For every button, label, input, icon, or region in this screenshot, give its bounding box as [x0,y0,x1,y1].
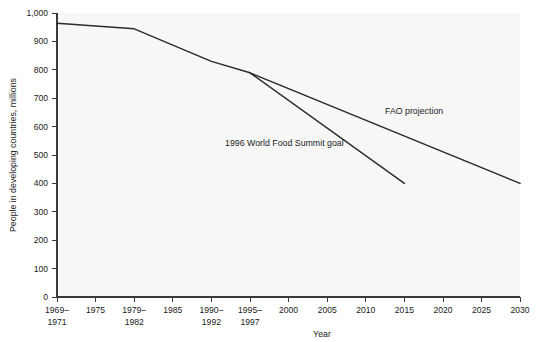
x-tick-label: 1990– [199,305,223,315]
x-tick-label-line2: 1992 [202,317,221,327]
x-axis-title: Year [313,329,331,339]
x-tick-label-line2: 1971 [47,317,66,327]
y-tick-label: 600 [34,122,49,132]
x-tick-label-line2: 1997 [240,317,259,327]
y-tick-label: 200 [34,235,49,245]
y-tick-label: 100 [34,264,49,274]
x-tick-label: 1979– [122,305,146,315]
x-tick-label: 1995– [238,305,262,315]
y-tick-label: 800 [34,65,49,75]
x-tick-label: 2030 [510,305,529,315]
y-axis-ticks [52,13,57,297]
line-chart-canvas: 0 100 200 300 400 500 600 700 800 900 1,… [0,0,545,342]
x-tick-label: 2000 [279,305,298,315]
y-tick-label: 700 [34,93,49,103]
y-tick-label: 0 [43,292,48,302]
y-axis-title: People in developing countries, millions [8,77,18,232]
annotation-fao-projection: FAO projection [385,106,443,116]
x-tick-label: 2010 [356,305,375,315]
x-tick-label: 1985 [163,305,182,315]
y-tick-label: 1,000 [26,8,48,18]
x-tick-label: 2015 [395,305,414,315]
x-tick-label: 1969– [45,305,69,315]
y-tick-label: 300 [34,207,49,217]
y-tick-label: 900 [34,36,49,46]
x-tick-label: 2025 [472,305,491,315]
x-tick-label: 2020 [433,305,452,315]
y-tick-label: 500 [34,150,49,160]
x-axis-ticks [57,297,520,302]
x-tick-label: 2005 [318,305,337,315]
y-tick-label: 400 [34,178,49,188]
x-tick-label-line2: 1982 [125,317,144,327]
annotation-world-food-summit-goal: 1996 World Food Summit goal [225,138,344,148]
y-axis-tick-labels: 0 100 200 300 400 500 600 700 800 900 1,… [26,8,48,302]
x-tick-label: 1975 [86,305,105,315]
x-axis-tick-labels: 1969– 1971 1975 1979– 1982 1985 1990– 19… [45,305,530,327]
chart-figure: 0 100 200 300 400 500 600 700 800 900 1,… [0,0,545,342]
